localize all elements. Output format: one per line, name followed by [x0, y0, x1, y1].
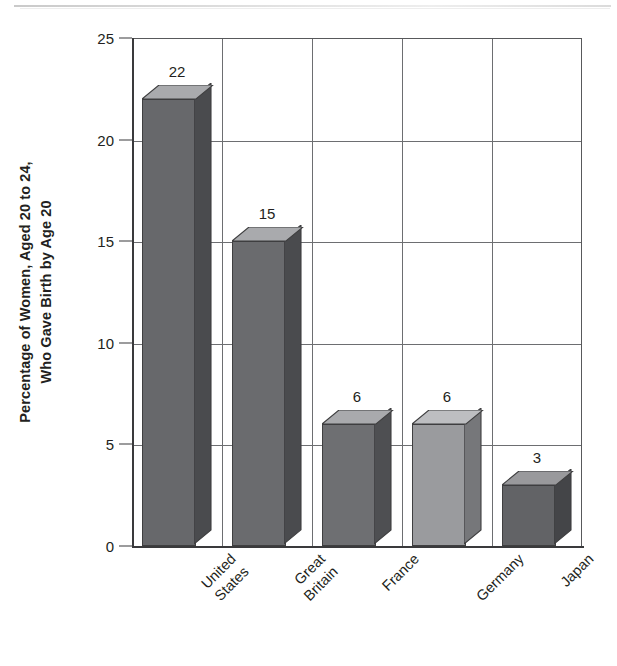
- bar-front-face: [322, 424, 376, 546]
- y-axis-title-line-2: Who Gave Birth by Age 20: [36, 161, 57, 422]
- y-axis-tick: 15: [94, 233, 132, 250]
- bar-front-face: [412, 424, 466, 546]
- bar-side-face: [284, 227, 303, 546]
- y-axis-tick: 5: [94, 436, 132, 453]
- bar-front-face: [232, 241, 286, 546]
- bar[interactable]: [322, 424, 376, 546]
- x-axis-category-label-line: Japan: [557, 550, 598, 591]
- chart-page: Percentage of Women, Aged 20 to 24, Who …: [0, 0, 617, 666]
- bar-slot: 22: [142, 38, 196, 546]
- y-axis-tick: 25: [94, 30, 132, 47]
- x-axis-category-label: Germany: [472, 550, 527, 605]
- x-axis-category-label: Japan: [557, 550, 598, 591]
- bar-side-face: [464, 410, 483, 546]
- bars-group: 2215663: [132, 38, 582, 546]
- x-axis-category-label-line: Germany: [472, 550, 527, 605]
- y-axis-tick-label: 0: [94, 538, 114, 555]
- y-axis-tick: 10: [94, 334, 132, 351]
- y-axis-title-line-1: Percentage of Women, Aged 20 to 24,: [17, 161, 33, 422]
- bar[interactable]: [502, 485, 556, 546]
- y-axis-tick: 20: [94, 131, 132, 148]
- bar[interactable]: [232, 241, 286, 546]
- bar-slot: 15: [232, 38, 286, 546]
- x-axis-line: [132, 546, 584, 548]
- bar-value-label: 6: [330, 388, 384, 405]
- y-axis-tick-mark: [119, 241, 132, 242]
- y-axis-line: [132, 38, 134, 547]
- bar[interactable]: [412, 424, 466, 546]
- y-axis-tick-mark: [119, 444, 132, 445]
- x-axis-category-label-line: France: [378, 550, 423, 595]
- bar-value-label: 6: [420, 388, 474, 405]
- y-axis-tick-mark: [119, 546, 132, 547]
- bar-value-label: 3: [510, 449, 564, 466]
- scan-artifact-line: [14, 5, 611, 7]
- bar[interactable]: [142, 99, 196, 546]
- bar-front-face: [142, 99, 196, 546]
- y-axis-tick: 0: [94, 538, 132, 555]
- bar-slot: 6: [412, 38, 466, 546]
- bar-slot: 3: [502, 38, 556, 546]
- x-axis-category-label: UnitedStates: [197, 550, 252, 605]
- y-axis-tick-mark: [119, 139, 132, 140]
- bar-front-face: [502, 485, 556, 546]
- y-axis-ticks: 0510152025: [72, 38, 132, 546]
- y-axis-tick-label: 10: [94, 334, 114, 351]
- bar-value-label: 15: [240, 205, 294, 222]
- y-axis-tick-mark: [119, 38, 132, 39]
- scan-artifact-line-secondary: [20, 8, 610, 9]
- y-axis-title-container: Percentage of Women, Aged 20 to 24, Who …: [0, 38, 72, 546]
- y-axis-title: Percentage of Women, Aged 20 to 24, Who …: [15, 161, 57, 422]
- x-axis-category-label: GreatBritain: [287, 550, 342, 605]
- bar-value-label: 22: [150, 63, 204, 80]
- y-axis-tick-label: 5: [94, 436, 114, 453]
- bar-side-face: [194, 85, 213, 546]
- y-axis-tick-mark: [119, 342, 132, 343]
- y-axis-tick-label: 15: [94, 233, 114, 250]
- y-axis-tick-label: 20: [94, 131, 114, 148]
- y-axis-tick-label: 25: [94, 30, 114, 47]
- x-axis-category-label: France: [378, 550, 423, 595]
- bar-side-face: [374, 410, 393, 546]
- x-axis-labels: UnitedStatesGreatBritainFranceGermanyJap…: [132, 550, 582, 662]
- bar-slot: 6: [322, 38, 376, 546]
